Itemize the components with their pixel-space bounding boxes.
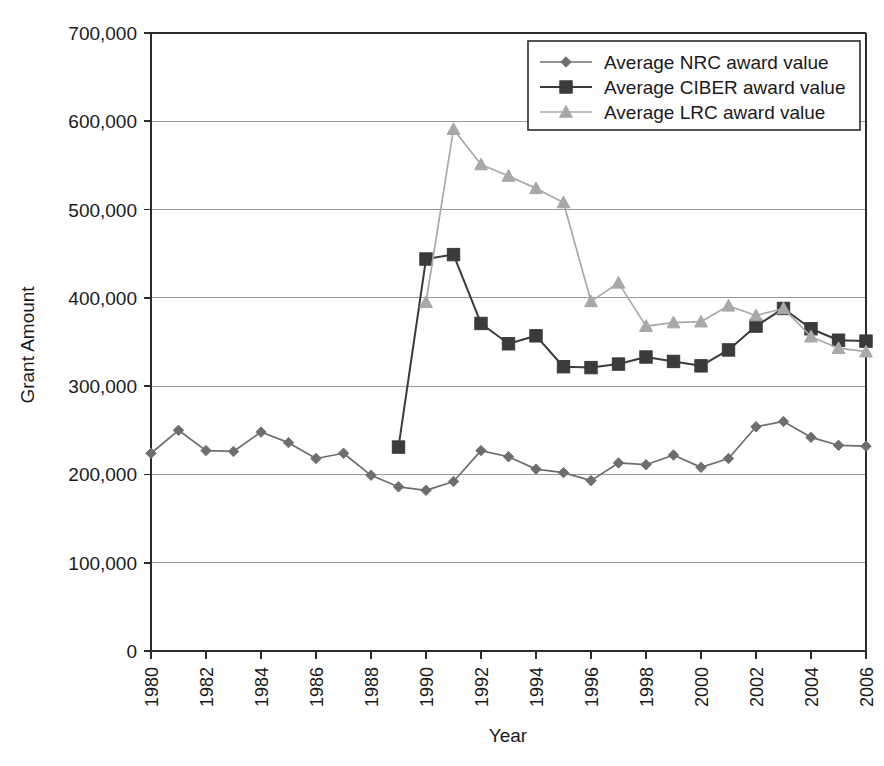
x-axis-tick-label: 1990 <box>417 667 437 707</box>
data-point-marker <box>750 320 762 332</box>
data-point-marker <box>612 358 624 370</box>
data-point-marker <box>667 355 679 367</box>
x-axis-tick-label: 1998 <box>637 667 657 707</box>
x-axis-tick-label: 2000 <box>692 667 712 707</box>
x-axis-tick-label: 1994 <box>527 667 547 707</box>
data-point-marker <box>420 253 432 265</box>
data-point-marker <box>392 441 404 453</box>
chart-legend: Average NRC award valueAverage CIBER awa… <box>528 41 860 130</box>
y-axis-title-text: Grant Amount <box>17 286 38 404</box>
data-point-marker <box>640 351 652 363</box>
x-axis-tick-label: 1986 <box>307 667 327 707</box>
x-axis-tick-label: 1982 <box>197 667 217 707</box>
y-axis-tick-label: 400,000 <box>68 288 137 309</box>
y-axis-title: Grant Amount <box>17 286 38 404</box>
y-axis-tick-label: 700,000 <box>68 23 137 44</box>
data-point-marker <box>530 330 542 342</box>
data-point-marker <box>475 317 487 329</box>
data-point-marker <box>447 248 459 260</box>
x-axis-title-text: Year <box>489 725 528 746</box>
x-axis-tick-label: 2004 <box>802 667 822 707</box>
legend-item-label: Average LRC award value <box>604 102 825 123</box>
x-axis-tick-label: 1984 <box>252 667 272 707</box>
data-point-marker <box>585 361 597 373</box>
x-axis-tick-label: 1992 <box>472 667 492 707</box>
data-point-marker <box>502 338 514 350</box>
x-axis-tick-label: 2006 <box>857 667 877 707</box>
chart-container: 700,000600,000500,000400,000300,000200,0… <box>0 0 884 766</box>
grant-amount-line-chart: 700,000600,000500,000400,000300,000200,0… <box>0 0 884 766</box>
y-axis-tick-label: 600,000 <box>68 111 137 132</box>
y-axis-tick-label: 100,000 <box>68 553 137 574</box>
legend-item-label: Average NRC award value <box>604 52 829 73</box>
data-point-marker <box>695 360 707 372</box>
x-axis-tick-label: 1980 <box>142 667 162 707</box>
y-axis-tick-label: 500,000 <box>68 200 137 221</box>
x-axis-tick-label: 1996 <box>582 667 602 707</box>
legend-item-label: Average CIBER award value <box>604 77 846 98</box>
x-axis-tick-label: 1988 <box>362 667 382 707</box>
legend-marker-square-icon <box>560 81 572 93</box>
y-axis-tick-label: 0 <box>126 641 137 662</box>
x-axis-tick-label: 2002 <box>747 667 767 707</box>
data-point-marker <box>557 361 569 373</box>
data-point-marker <box>722 344 734 356</box>
y-axis-tick-label: 200,000 <box>68 464 137 485</box>
x-axis-title: Year <box>489 725 528 746</box>
y-axis-tick-label: 300,000 <box>68 376 137 397</box>
